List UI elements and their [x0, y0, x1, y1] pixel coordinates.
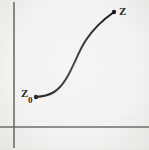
sigmoid-curve: [36, 12, 114, 97]
curve-start-label-subscript: 0: [28, 96, 33, 105]
curve-end-label: Z: [119, 6, 126, 17]
curve-start-point-marker: [34, 95, 38, 99]
diagram-svg: [0, 0, 149, 150]
curve-end-point-marker: [112, 10, 116, 14]
diagram-canvas: Z Z 0: [0, 0, 149, 150]
